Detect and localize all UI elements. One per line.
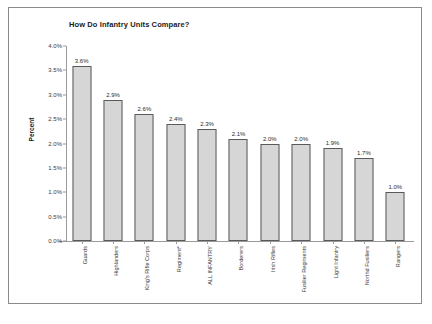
bar-slot: 3.6%Guards [66, 46, 97, 241]
bar-value-label: 1.9% [326, 140, 340, 146]
x-axis-category-label: Fusilier Regiments [301, 246, 307, 292]
x-axis-tick-mark [176, 241, 177, 244]
bar[interactable] [72, 66, 91, 242]
bar[interactable] [354, 158, 373, 241]
x-axis-category-label: King's Rifle Corps [144, 246, 150, 290]
bar-slot: 2.9%Highlanders [97, 46, 128, 241]
x-axis-category-label: Regiment* [176, 246, 182, 272]
bar[interactable] [323, 148, 342, 241]
bar-value-label: 2.0% [294, 136, 308, 142]
bar-slot: 2.6%King's Rifle Corps [129, 46, 160, 241]
x-axis-category-label: Rangers [395, 246, 401, 267]
x-axis-tick-mark [395, 241, 396, 244]
bar-slot: 1.7%Northd Fusiliers [348, 46, 379, 241]
x-axis-category-label: Light Infantry [333, 246, 339, 278]
bar-slot: 2.1%Borderers [223, 46, 254, 241]
x-axis-tick-mark [82, 241, 83, 244]
bar-value-label: 2.6% [138, 106, 152, 112]
chart-frame: How Do Infantry Units Compare? Percent 0… [8, 7, 422, 304]
x-axis-category-label: Northd Fusiliers [364, 246, 370, 285]
bar[interactable] [260, 144, 279, 242]
plot-area: 0.0%0.5%1.0%1.5%2.0%2.5%3.0%3.5%4.0% 3.6… [66, 46, 411, 241]
chart-title: How Do Infantry Units Compare? [69, 20, 190, 29]
bar[interactable] [198, 129, 217, 241]
y-axis-title: Percent [28, 100, 35, 160]
bar-slot: 2.0%Irish Rifles [254, 46, 285, 241]
x-axis-tick-mark [301, 241, 302, 244]
bar-value-label: 2.9% [106, 92, 120, 98]
x-axis-tick-mark [113, 241, 114, 244]
x-axis-category-label: Guards [82, 246, 88, 264]
bar[interactable] [292, 144, 311, 242]
x-axis-tick-mark [270, 241, 271, 244]
x-axis-category-label: Irish Rifles [270, 246, 276, 272]
x-axis-tick-mark [333, 241, 334, 244]
bar-slot: 1.9%Light Infantry [317, 46, 348, 241]
bar-slot: 2.0%Fusilier Regiments [286, 46, 317, 241]
bar-value-label: 2.0% [263, 136, 277, 142]
bar-value-label: 2.3% [200, 121, 214, 127]
bar[interactable] [229, 139, 248, 241]
bar[interactable] [135, 114, 154, 241]
x-axis-tick-mark [364, 241, 365, 244]
bar-slot: 2.4%Regiment* [160, 46, 191, 241]
x-axis-tick-mark [144, 241, 145, 244]
bar-value-label: 2.4% [169, 116, 183, 122]
bar-value-label: 1.7% [357, 150, 371, 156]
bar-slot: 2.3%ALL INFANTRY [191, 46, 222, 241]
x-axis-category-label: ALL INFANTRY [207, 246, 213, 285]
bar[interactable] [104, 100, 123, 241]
x-axis-tick-mark [207, 241, 208, 244]
x-axis-tick-mark [238, 241, 239, 244]
bar-value-label: 3.6% [75, 58, 89, 64]
x-axis-category-label: Highlanders [113, 246, 119, 276]
x-axis-category-label: Borderers [238, 246, 244, 271]
bar[interactable] [166, 124, 185, 241]
bar-value-label: 2.1% [232, 131, 246, 137]
bar[interactable] [386, 192, 405, 241]
bar-slot: 1.0%Rangers [380, 46, 411, 241]
bar-value-label: 1.0% [388, 184, 402, 190]
